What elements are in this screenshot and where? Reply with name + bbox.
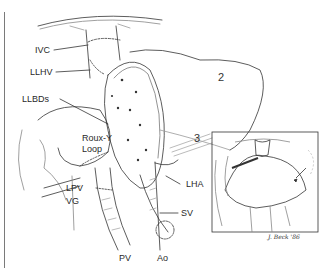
label-roux-y: Roux-Y xyxy=(82,134,112,143)
label-lha: LHA xyxy=(186,180,204,189)
label-pv: PV xyxy=(119,254,131,263)
segment-3-label: 3 xyxy=(194,133,200,144)
inset-diagram xyxy=(212,132,318,232)
label-lpv: LPV xyxy=(66,184,83,193)
label-ivc: IVC xyxy=(35,46,50,55)
surgical-figure: IVC LLHV LLBDs Roux-Y Loop LPV VG PV Ao … xyxy=(0,0,326,273)
label-ao: Ao xyxy=(157,254,168,263)
label-loop: Loop xyxy=(82,145,102,154)
label-sv: SV xyxy=(181,209,193,218)
label-llhv: LLHV xyxy=(30,68,53,77)
label-vg: VG xyxy=(66,197,79,206)
label-llbds: LLBDs xyxy=(22,95,49,104)
artist-signature: J. Beck '86 xyxy=(268,233,300,240)
segment-2-label: 2 xyxy=(218,72,224,83)
